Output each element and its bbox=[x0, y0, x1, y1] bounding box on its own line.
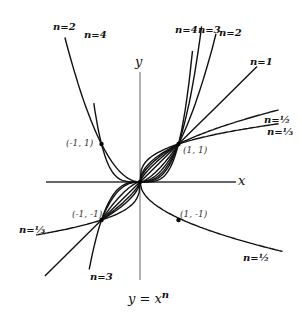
x-axis-label: x bbox=[238, 174, 245, 187]
power-curve bbox=[140, 182, 283, 251]
curve-label-n2-left: n=2 bbox=[53, 22, 76, 32]
curve-label-n3-right: n=3 bbox=[198, 25, 221, 35]
power-curve bbox=[94, 51, 193, 182]
power-function-plot bbox=[0, 0, 302, 319]
curve-label-n-half-bottom: n=½ bbox=[243, 253, 269, 263]
point-label-neg1-neg1: (-1, -1) bbox=[72, 210, 102, 219]
power-curve bbox=[45, 67, 257, 276]
equation-exponent: n bbox=[162, 289, 169, 300]
origin-marker bbox=[138, 180, 142, 184]
curve-label-n3-bottom: n=3 bbox=[90, 272, 113, 282]
equation-base: y = x bbox=[128, 291, 162, 306]
point-label-1-1: (1, 1) bbox=[183, 146, 207, 155]
curve-label-n-half-top: n=½ bbox=[264, 115, 290, 125]
curve-label-n4-right: n=4 bbox=[175, 25, 198, 35]
point-marker bbox=[176, 142, 180, 146]
point-label-neg1-1: (-1, 1) bbox=[66, 139, 93, 148]
curve-group bbox=[36, 26, 283, 276]
curve-label-n-third-right: n=⅓ bbox=[267, 127, 293, 137]
point-marker bbox=[99, 142, 103, 146]
equation-caption: y = xn bbox=[128, 290, 169, 305]
curve-label-n2-right: n=2 bbox=[219, 28, 242, 38]
y-axis-label: y bbox=[135, 55, 142, 68]
curve-label-n4-left: n=4 bbox=[84, 30, 107, 40]
curve-label-n-third-left: n=⅓ bbox=[19, 225, 45, 235]
point-label-1-neg1: (1, -1) bbox=[180, 210, 207, 219]
curve-label-n1: n=1 bbox=[250, 57, 273, 67]
